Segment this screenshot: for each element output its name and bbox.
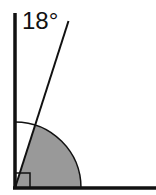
angle-label: 18° (22, 7, 58, 34)
angle-diagram: 18° (0, 0, 156, 195)
